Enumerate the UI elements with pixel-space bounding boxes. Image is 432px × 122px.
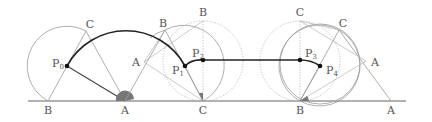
- side-ab: [125, 30, 165, 101]
- point-p0: [65, 64, 70, 69]
- side-ca: [86, 31, 125, 101]
- locus-arc-p0-p1: [67, 31, 185, 66]
- label-vertex-c-right: C: [339, 17, 347, 30]
- label-p4: P4: [326, 64, 338, 78]
- aux-c-c: [300, 21, 339, 30]
- segment-p0-a: [67, 66, 125, 101]
- label-ground-b1: B: [44, 104, 52, 117]
- label-ground-a2: A: [386, 104, 396, 117]
- label-vertex-c1: C: [86, 18, 94, 31]
- label-ground-b2: B: [296, 104, 304, 117]
- segment-p1-c: [185, 66, 203, 101]
- point-p4: [318, 64, 323, 69]
- label-vertex-b-mid: B: [159, 17, 167, 30]
- label-vertex-a-mid: A: [131, 56, 141, 69]
- label-p1: P1: [172, 64, 184, 78]
- label-vertex-a-right: A: [370, 56, 380, 69]
- label-p3: P3: [305, 47, 317, 61]
- angle-marker-a: [116, 91, 134, 101]
- label-ground-c: C: [199, 104, 207, 117]
- label-ground-a1: A: [120, 104, 130, 117]
- segment-p4-b: [300, 66, 320, 101]
- label-vertex-b-top: B: [199, 6, 207, 19]
- label-p0: P0: [52, 57, 64, 71]
- side-ca: [339, 30, 391, 101]
- locus-arc-p3-p4: [300, 60, 320, 66]
- triangle-position-1: [27, 26, 134, 101]
- label-p2: P2: [192, 47, 204, 61]
- point-p1: [183, 64, 188, 69]
- rolling-triangle-diagram: B A C B A C A B B C C A P0 P1 P2 P3 P4: [0, 0, 432, 122]
- point-p3: [298, 58, 303, 63]
- diagram-canvas: B A C B A C A B B C C A P0 P1 P2 P3 P4: [0, 0, 432, 122]
- label-vertex-c-top: C: [296, 6, 304, 19]
